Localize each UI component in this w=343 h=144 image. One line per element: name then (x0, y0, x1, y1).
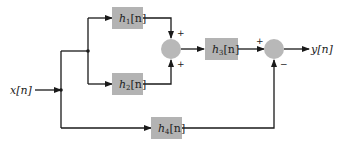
arrow-h1-to-sum1 (143, 18, 171, 38)
split-dot-input (59, 88, 63, 92)
summing-junction-2: + − (256, 36, 288, 69)
svg-text:h4[n]: h4[n] (158, 122, 185, 136)
sum1-sign-top: + (177, 28, 185, 38)
block-h2: h2[n] (112, 73, 146, 95)
block-diagram: h1[n] h2[n] h3[n] h4[n] + + + − x[n] y[n… (0, 0, 343, 144)
block-h3: h3[n] (205, 38, 239, 60)
split-dot-h1h2 (86, 49, 90, 53)
sum1-sign-bottom: + (177, 59, 185, 69)
svg-text:h1[n]: h1[n] (119, 12, 146, 26)
svg-text:h2[n]: h2[n] (119, 78, 146, 92)
sum2-sign-left: + (256, 36, 264, 46)
block-h4: h4[n] (151, 117, 185, 139)
sum2-sign-bottom: − (280, 59, 288, 69)
output-label: y[n] (310, 43, 334, 56)
input-label: x[n] (10, 84, 33, 97)
arrow-h4-to-sum2 (182, 60, 274, 128)
arrow-h2-to-sum1 (143, 60, 171, 84)
connection-lines (35, 18, 309, 128)
svg-text:h3[n]: h3[n] (212, 43, 239, 57)
block-h1: h1[n] (112, 7, 146, 29)
